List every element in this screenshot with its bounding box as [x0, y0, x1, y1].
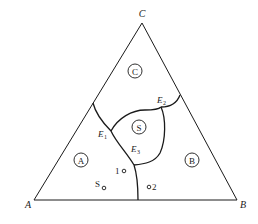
boundary-AC-to-E1: [93, 103, 111, 131]
svg-text:C: C: [132, 67, 138, 77]
svg-text:1: 1: [104, 134, 107, 140]
boundary-E3-to-AB: [134, 165, 138, 200]
eutectic-label-e3: E 3: [130, 144, 140, 155]
eutectic-label-e1: E 1: [97, 129, 107, 140]
ternary-phase-diagram: C A B C S A B E 1 E 2 E 3 1 S 2: [0, 0, 258, 224]
vertex-label-b: B: [240, 199, 246, 210]
svg-text:E: E: [156, 95, 163, 105]
region-b-label: B: [185, 153, 199, 167]
vertex-label-c: C: [139, 8, 146, 19]
region-c-label: C: [128, 64, 142, 78]
region-s-label: S: [132, 120, 146, 134]
svg-text:B: B: [189, 156, 195, 166]
svg-text:2: 2: [152, 182, 157, 192]
svg-text:E: E: [130, 144, 137, 154]
svg-text:E: E: [97, 129, 104, 139]
svg-text:S: S: [136, 123, 141, 133]
svg-text:A: A: [78, 156, 85, 166]
svg-text:S: S: [95, 179, 100, 189]
boundary-S-region-right: [134, 107, 165, 165]
svg-text:1: 1: [115, 166, 120, 176]
point-1: 1: [115, 166, 126, 176]
svg-text:2: 2: [163, 100, 166, 106]
point-2: 2: [147, 182, 156, 192]
region-a-label: A: [74, 153, 88, 167]
eutectic-label-e2: E 2: [156, 95, 166, 106]
vertex-label-a: A: [24, 199, 32, 210]
point-s: S: [95, 179, 106, 190]
svg-text:3: 3: [137, 149, 140, 155]
